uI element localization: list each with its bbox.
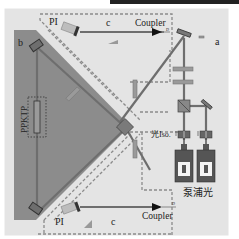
label-b: b [18,37,23,48]
label-c-bottom: c [111,216,116,227]
label-pi-bottom: PI [55,216,64,227]
label-pump: 泵浦光 [183,186,213,198]
label-isolator: 光Iso. [151,129,171,139]
label-coupler-top: Coupler [135,18,166,28]
label-coupler-bottom: Coupler [142,211,173,221]
label-pi-top: PI [49,16,58,27]
top-dark-strip [110,0,239,4]
ppktp-crystal [34,101,40,133]
isolator-left [178,131,190,138]
optical-setup-diagram: PI c Coupler D a b PPKTP 光Iso. 泵浦光 PI c … [0,0,239,239]
label-a: a [215,36,220,47]
label-c-top: c [106,17,111,28]
isolator-right [200,131,212,138]
label-d-top: D [166,27,169,32]
label-crystal: PPKTP [19,106,29,133]
label-d-bottom: D [172,201,175,206]
